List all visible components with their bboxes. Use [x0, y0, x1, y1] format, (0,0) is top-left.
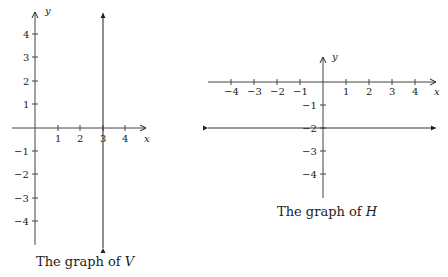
graph-h-y-tick: −1	[302, 100, 317, 111]
graph-h-x-tick: −2	[270, 86, 285, 97]
graph-v-y-tick: 4	[23, 29, 29, 40]
graph-v-y-tick: −4	[14, 216, 29, 227]
graph-v-y-tick: 1	[23, 99, 29, 110]
graph-h-x-tick: −3	[247, 86, 262, 97]
graph-v-x-tick: 2	[77, 133, 83, 144]
graph-v-x-label: x	[144, 133, 150, 144]
graph-h-x-tick: 4	[412, 86, 418, 97]
graph-v-x-tick: 4	[122, 133, 128, 144]
graph-h-x-tick: 3	[389, 86, 395, 97]
graph-h-x-label: x	[434, 86, 440, 97]
graph-h-y-label: y	[331, 51, 338, 62]
graph-v-x-tick: 1	[55, 133, 61, 144]
graph-v-y-tick: 2	[23, 76, 29, 87]
graph-v-y-label: y	[44, 5, 51, 16]
graph-h-caption: The graph of H	[277, 204, 378, 219]
graph-h-x-tick: −4	[224, 86, 239, 97]
graph-v-caption: The graph of V	[36, 254, 136, 269]
graph-v-y-tick: −2	[14, 169, 29, 180]
graph-h-x-tick: 2	[366, 86, 372, 97]
figure: y x 1 2 3 4 4 3 2 1 −1 −2 −3 −4	[0, 0, 448, 277]
graph-v: y x 1 2 3 4 4 3 2 1 −1 −2 −3 −4	[12, 5, 150, 269]
graph-h-y-tick: −3	[302, 146, 317, 157]
graph-v-y-tick: 3	[23, 52, 29, 63]
graph-h-x-tick: 1	[343, 86, 349, 97]
graph-v-y-tick: −3	[14, 193, 29, 204]
graph-h-x-tick: −1	[293, 86, 308, 97]
graph-h-y-tick: −4	[302, 169, 317, 180]
graph-v-y-tick: −1	[14, 146, 29, 157]
graph-h: y x −4 −3 −2 −1 1 2 3 4 −1 −2 −3	[208, 51, 440, 219]
